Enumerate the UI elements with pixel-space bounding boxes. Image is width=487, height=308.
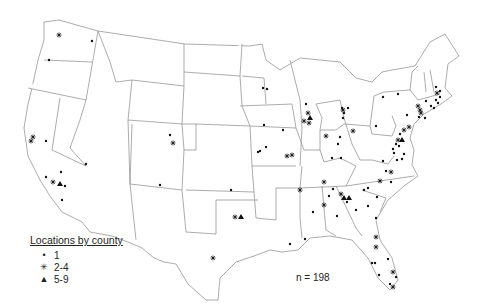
legend-item-5-9: ▲ 5-9	[30, 273, 123, 285]
asterisk-marker	[435, 91, 440, 96]
dot-marker	[396, 159, 398, 161]
dot-marker	[398, 145, 400, 147]
dot-marker	[305, 103, 307, 105]
dot-marker	[346, 201, 348, 203]
dot-marker	[382, 96, 384, 98]
dot-marker	[439, 96, 441, 98]
dot-marker	[169, 134, 171, 136]
dot-marker	[282, 129, 284, 131]
dot-marker	[375, 217, 377, 219]
asterisk-marker	[378, 179, 383, 184]
dot-marker	[304, 238, 306, 240]
asterisk-marker	[322, 180, 327, 185]
asterisk-marker	[391, 285, 396, 290]
dot-marker	[382, 160, 384, 162]
dot-marker	[265, 146, 267, 148]
dot-marker	[339, 136, 341, 138]
dot-marker	[433, 107, 435, 109]
dot-marker	[437, 102, 439, 104]
asterisk-marker	[285, 154, 290, 159]
asterisk-marker	[322, 203, 327, 208]
dot-marker	[61, 199, 63, 201]
dot-marker	[332, 188, 334, 190]
dot-marker	[435, 86, 437, 88]
legend-label: 2-4	[54, 262, 68, 273]
asterisk-marker	[341, 108, 346, 113]
asterisk-marker	[233, 215, 238, 220]
legend-item-2-4: ✳ 2-4	[30, 261, 123, 273]
dot-marker	[60, 171, 62, 173]
dot-marker	[375, 125, 377, 127]
dot-marker	[159, 184, 161, 186]
dot-marker	[266, 88, 268, 90]
asterisk-marker	[290, 153, 295, 158]
dot-marker	[439, 90, 441, 92]
legend-title: Locations by county	[30, 234, 123, 246]
dot-marker	[91, 40, 93, 42]
asterisk-marker	[374, 235, 379, 240]
dot-marker	[406, 114, 408, 116]
dot-marker	[355, 209, 357, 211]
dot-marker	[336, 215, 338, 217]
dot-marker	[371, 262, 373, 264]
dot-marker	[45, 176, 47, 178]
dot-marker	[328, 195, 330, 197]
asterisk-marker	[324, 134, 329, 139]
asterisk-marker	[211, 256, 216, 261]
asterisk-marker	[306, 111, 311, 116]
dot-marker	[430, 105, 432, 107]
dot-marker	[289, 243, 291, 245]
dot-marker	[395, 143, 397, 145]
legend-label: 1	[54, 250, 60, 261]
asterisk-marker	[29, 139, 34, 144]
dot-marker	[395, 276, 397, 278]
dot-marker	[399, 133, 401, 135]
dot-marker	[45, 140, 47, 142]
dot-marker	[85, 163, 87, 165]
triangle-icon: ▲	[38, 274, 50, 284]
dot-icon: •	[38, 250, 50, 260]
dot-marker	[387, 258, 389, 260]
asterisk-marker	[351, 129, 356, 134]
dot-marker	[418, 116, 420, 118]
dot-marker	[312, 211, 314, 213]
legend: Locations by county • 1 ✳ 2-4 ▲ 5-9	[30, 234, 123, 285]
dot-marker	[367, 205, 369, 207]
legend-label: 5-9	[54, 274, 68, 285]
dot-marker	[376, 196, 378, 198]
dot-marker	[403, 153, 405, 155]
asterisk-marker	[171, 141, 176, 146]
asterisk-marker	[389, 170, 394, 175]
dot-marker	[425, 100, 427, 102]
asterisk-icon: ✳	[38, 262, 50, 272]
dot-marker	[401, 158, 403, 160]
dot-marker	[397, 93, 399, 95]
asterisk-marker	[391, 270, 396, 275]
dot-marker	[230, 189, 232, 191]
dot-marker	[262, 87, 264, 89]
dot-marker	[385, 170, 387, 172]
dot-marker	[257, 151, 259, 153]
asterisk-marker	[307, 121, 312, 126]
asterisk-marker	[302, 119, 307, 124]
asterisk-marker	[57, 33, 62, 38]
asterisk-marker	[298, 188, 303, 193]
dot-marker	[424, 117, 426, 119]
dot-marker	[390, 181, 392, 183]
dot-marker	[331, 157, 333, 159]
dot-marker	[389, 283, 391, 285]
dot-marker	[263, 124, 265, 126]
dot-marker	[340, 157, 342, 159]
asterisk-marker	[407, 125, 412, 130]
dot-marker	[378, 274, 380, 276]
dot-marker	[374, 262, 376, 264]
dot-marker	[48, 59, 50, 61]
dot-marker	[392, 148, 394, 150]
asterisk-marker	[374, 245, 379, 250]
dot-marker	[367, 187, 369, 189]
asterisk-marker	[419, 111, 424, 116]
dot-marker	[342, 117, 344, 119]
asterisk-marker	[339, 192, 344, 197]
dot-marker	[64, 185, 66, 187]
sample-size-label: n = 198	[296, 272, 330, 283]
